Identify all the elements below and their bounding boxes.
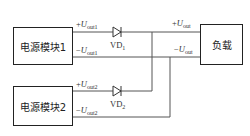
module1-minus-label: −Uout1 [76, 46, 98, 56]
module2-plus-label: +Uout2 [76, 80, 98, 90]
diode-vd1-label: VD1 [110, 41, 125, 51]
diode-vd2-label: VD2 [110, 100, 125, 110]
power-module-1: 电源模块1 [13, 27, 73, 65]
power-module-1-label: 电源模块1 [20, 39, 66, 54]
load-plus-label: +Uout [172, 19, 191, 29]
power-module-2-label: 电源模块2 [20, 99, 66, 114]
load-label: 负载 [212, 37, 232, 52]
load-minus-label: −Uout [174, 45, 193, 55]
diode-vd1-icon [113, 27, 121, 37]
diode-vd2-icon [113, 86, 121, 96]
power-module-2: 电源模块2 [13, 86, 73, 126]
module1-plus-label: +Uout1 [76, 20, 98, 30]
parallel-power-supply-diagram: 电源模块1 +Uout1 −Uout1 VD1 电源模块2 +Uout2 −Uo… [0, 0, 250, 136]
module2-minus-label: −Uout2 [76, 106, 98, 116]
load-box: 负载 [200, 24, 243, 65]
